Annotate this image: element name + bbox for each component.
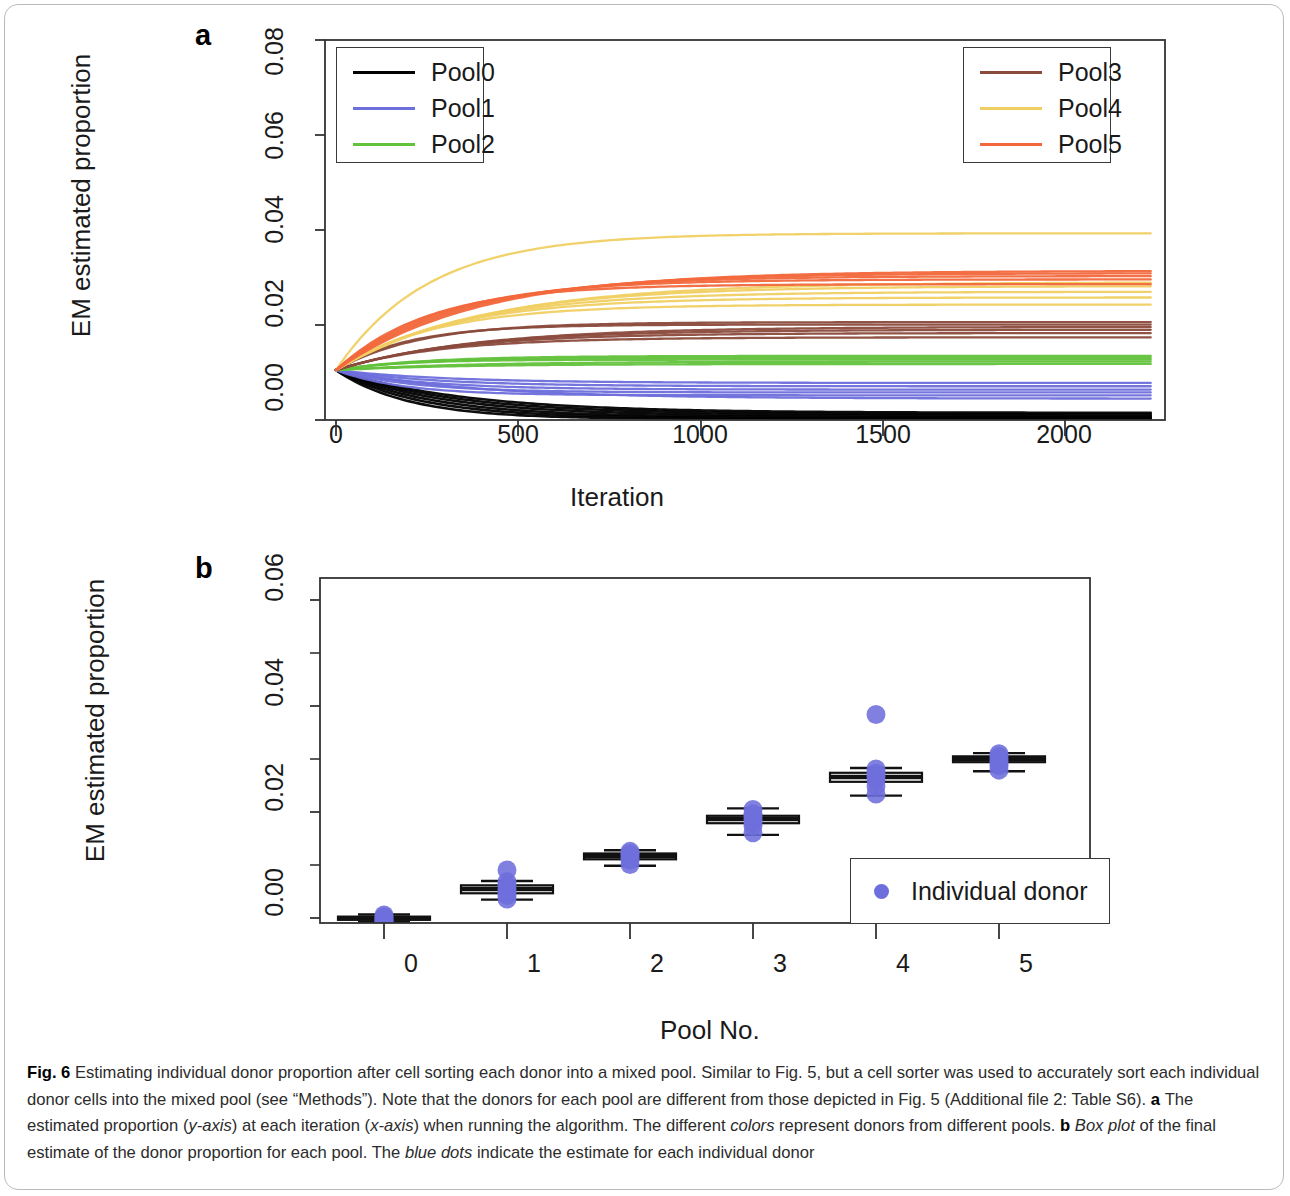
- panel-a-legend-entry-pool5: Pool5: [980, 130, 1122, 159]
- panel-a-y-axis-title: EM estimated proportion: [66, 46, 97, 346]
- panel-b-y-axis-title: EM estimated proportion: [80, 571, 111, 871]
- individual-donor-label: Individual donor: [911, 877, 1088, 906]
- pool2-line-swatch: [353, 143, 415, 146]
- panel-b-ytick-3: 0.06: [260, 542, 289, 614]
- individual-donor-dot: [498, 860, 517, 879]
- panel-b-ytick-0: 0.00: [260, 857, 289, 929]
- panel-a-ytick-1: 0.02: [260, 268, 289, 340]
- individual-donor-dot-icon: [874, 884, 889, 899]
- pool4-line-swatch: [980, 107, 1042, 110]
- panel-b-xtick-3: 3: [745, 949, 815, 978]
- panel-b-ytick-2: 0.04: [260, 647, 289, 719]
- individual-donor-outlier-dot: [867, 705, 886, 724]
- figure-card: a EM estimated proportion Iteration 0.00…: [4, 4, 1284, 1190]
- panel-a-xtick-0: 0: [301, 420, 371, 449]
- pool3-label: Pool3: [1058, 58, 1122, 87]
- panel-a-xtick-3: 1500: [848, 420, 918, 449]
- pool3-line-swatch: [980, 71, 1042, 74]
- individual-donor-dot: [867, 760, 886, 779]
- figure-caption: Fig. 6 Estimating individual donor propo…: [27, 1060, 1267, 1166]
- individual-donor-dot: [621, 842, 640, 861]
- pool4-label: Pool4: [1058, 94, 1122, 123]
- panel-a-letter: a: [195, 19, 211, 52]
- panel-b-xtick-2: 2: [622, 949, 692, 978]
- panel-a-legend-entry-pool2: Pool2: [353, 130, 495, 159]
- pool0-label: Pool0: [431, 58, 495, 87]
- individual-donor-dot: [990, 744, 1009, 763]
- panel-a-ytick-3: 0.06: [260, 100, 289, 172]
- panel-a-legend-entry-pool0: Pool0: [353, 58, 495, 87]
- panel-a-legend-entry-pool3: Pool3: [980, 58, 1122, 87]
- panel-a-legend-entry-pool1: Pool1: [353, 94, 495, 123]
- panel-b-xtick-1: 1: [499, 949, 569, 978]
- panel-b-xtick-5: 5: [991, 949, 1061, 978]
- panel-a-legend-entry-pool4: Pool4: [980, 94, 1122, 123]
- individual-donor-dot: [375, 906, 394, 923]
- panel-a-xtick-2: 1000: [665, 420, 735, 449]
- panel-b-x-axis-title: Pool No.: [660, 1015, 760, 1046]
- panel-b-xtick-4: 4: [868, 949, 938, 978]
- pool5-line-swatch: [980, 143, 1042, 146]
- panel-a-xtick-1: 500: [483, 420, 553, 449]
- panel-b-xtick-0: 0: [376, 949, 446, 978]
- panel-b-letter: b: [195, 552, 213, 585]
- panel-b-legend-entry-donor: Individual donor: [850, 877, 1088, 906]
- panel-a-x-axis-title: Iteration: [570, 482, 664, 513]
- panel-a-xtick-4: 2000: [1029, 420, 1099, 449]
- pool1-line-swatch: [353, 107, 415, 110]
- panel-a-ytick-4: 0.08: [260, 16, 289, 88]
- panel-b-ytick-1: 0.02: [260, 752, 289, 824]
- panel-a-ytick-2: 0.04: [260, 184, 289, 256]
- pool5-label: Pool5: [1058, 130, 1122, 159]
- pool1-label: Pool1: [431, 94, 495, 123]
- pool2-label: Pool2: [431, 130, 495, 159]
- individual-donor-dot: [744, 800, 763, 819]
- panel-a-ytick-0: 0.00: [260, 352, 289, 424]
- pool0-line-swatch: [353, 71, 415, 74]
